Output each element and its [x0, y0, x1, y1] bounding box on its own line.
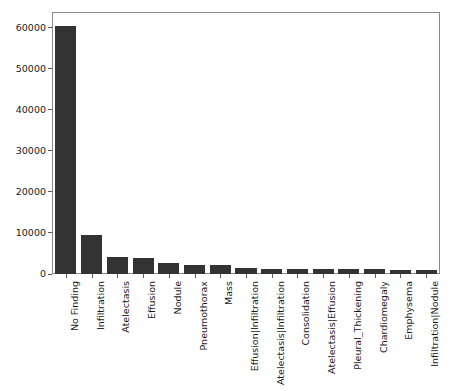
x-tick-label-text: Emphysema	[404, 281, 414, 340]
x-tick-label-text: Infiltration	[96, 281, 106, 330]
x-tick-label-text: Nodule	[173, 281, 183, 314]
x-tick-label-text: Mass	[224, 281, 234, 305]
x-tick-label-text: Chardiomegaly	[379, 281, 389, 353]
x-tick-label-text: Consolidation	[301, 281, 311, 346]
y-tick-label: 0	[40, 269, 48, 279]
bar	[390, 270, 411, 274]
y-tick-mark	[48, 274, 52, 275]
y-tick-mark	[48, 109, 52, 110]
bar	[313, 269, 334, 274]
x-tick-mark	[143, 274, 144, 278]
bar	[158, 263, 179, 274]
y-tick-mark	[48, 68, 52, 69]
bar	[107, 257, 128, 274]
y-tick-label: 40000	[16, 105, 48, 115]
x-tick-label-text: No Finding	[70, 281, 80, 331]
y-tick-label: 30000	[16, 146, 48, 156]
x-tick-mark	[195, 274, 196, 278]
bar	[81, 235, 102, 274]
y-tick-mark	[48, 150, 52, 151]
x-tick-mark	[66, 274, 67, 278]
bar-chart-figure: 0100002000030000400005000060000 No Findi…	[0, 0, 462, 391]
bar	[338, 269, 359, 274]
x-tick-mark	[426, 274, 427, 278]
y-tick-mark	[48, 232, 52, 233]
y-axis: 0100002000030000400005000060000	[0, 0, 52, 391]
bar	[133, 258, 154, 274]
bar	[261, 269, 282, 274]
bar	[287, 269, 308, 274]
bar	[364, 269, 385, 274]
x-tick-label-text: Pneumothorax	[199, 281, 209, 350]
bar	[235, 268, 256, 274]
x-tick-mark	[272, 274, 273, 278]
y-tick-label: 60000	[16, 23, 48, 33]
x-tick-label-text: Effusion	[147, 281, 157, 319]
x-tick-label-text: Effusion|Infiltration	[250, 281, 260, 371]
x-tick-mark	[92, 274, 93, 278]
y-tick-label: 50000	[16, 64, 48, 74]
bar	[210, 265, 231, 274]
x-tick-mark	[220, 274, 221, 278]
x-tick-label-text: Atelectasis	[121, 281, 131, 333]
y-tick-mark	[48, 191, 52, 192]
y-tick-mark	[48, 27, 52, 28]
bar	[184, 265, 205, 274]
x-tick-mark	[400, 274, 401, 278]
x-tick-label-text: Atelectasis|Effusion	[327, 281, 337, 374]
bars-layer	[53, 13, 439, 274]
x-tick-mark	[349, 274, 350, 278]
x-tick-mark	[246, 274, 247, 278]
y-tick-label: 20000	[16, 187, 48, 197]
x-tick-label-text: Atelectasis|Infiltration	[276, 281, 286, 385]
x-tick-mark	[117, 274, 118, 278]
x-tick-mark	[375, 274, 376, 278]
x-tick-mark	[169, 274, 170, 278]
x-tick-mark	[297, 274, 298, 278]
x-tick-label-text: Pleural_Thickening	[353, 281, 363, 370]
bar	[55, 26, 76, 274]
x-tick-label-text: Infiltration|Nodule	[430, 281, 440, 367]
x-tick-mark	[323, 274, 324, 278]
y-tick-label: 10000	[16, 228, 48, 238]
bar	[416, 270, 437, 274]
